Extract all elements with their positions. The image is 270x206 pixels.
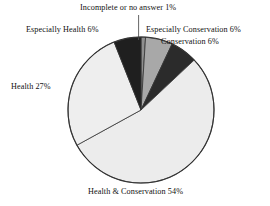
- slice-label-conservation: Conservation 6%: [161, 38, 219, 47]
- slice-label-especially-health: Especially Health 6%: [26, 26, 99, 35]
- pie-slice-group: [68, 37, 214, 183]
- slice-label-incomplete: Incomplete or no answer 1%: [80, 4, 176, 13]
- slice-label-health-and-conservation: Health & Conservation 54%: [88, 188, 183, 197]
- pie-chart-figure: Incomplete or no answer 1% Especially Co…: [0, 0, 270, 206]
- slice-label-especially-conservation: Especially Conservation 6%: [146, 26, 241, 35]
- slice-label-health: Health 27%: [11, 83, 51, 92]
